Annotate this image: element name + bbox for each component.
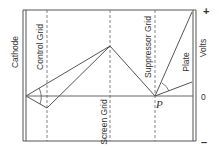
plate-label: Plate: [181, 52, 191, 72]
volts-label: Volts: [198, 39, 208, 57]
zero-label: 0: [201, 92, 206, 102]
minus-sign: –: [201, 136, 207, 148]
suppressor-grid-label: Suppressor Grid: [143, 16, 153, 78]
cathode-label: Cathode: [10, 36, 20, 68]
plus-sign: +: [203, 5, 209, 17]
potential-curve-high: [26, 12, 192, 96]
control-grid-label: Control Grid: [35, 24, 45, 70]
point-p-label: P: [155, 98, 163, 110]
screen-grid-label: Screen Grid: [99, 99, 109, 145]
plate-angle-arc: [162, 83, 169, 91]
tetrode-potential-diagram: Cathode Control Grid Screen Grid Suppres…: [0, 0, 219, 148]
